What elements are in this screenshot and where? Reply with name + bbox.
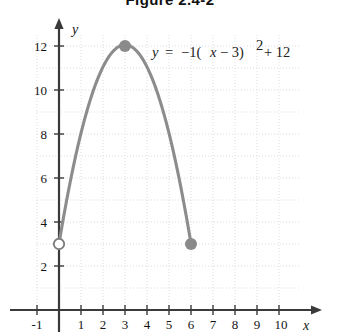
x-axis	[10, 305, 322, 314]
x-tick-label-3: 3	[122, 317, 129, 332]
y-axis-label: y	[70, 22, 79, 37]
x-tick-label-neg1: -1	[32, 317, 43, 332]
y-tick-label-4: 4	[41, 215, 48, 230]
grid-lines	[37, 35, 300, 308]
x-tick-label-2: 2	[100, 317, 107, 332]
equation-leading-coefficient: −1(	[181, 44, 201, 61]
x-tick-label-1: 1	[78, 317, 85, 332]
figure-container: Figure 2.4-2	[0, 0, 340, 335]
right-endpoint-marker	[185, 238, 197, 250]
x-tick-label-5: 5	[166, 317, 173, 332]
x-tick-label-4: 4	[144, 317, 151, 332]
equation-exponent: 2	[256, 37, 263, 53]
x-tick-label-6: 6	[188, 317, 195, 332]
x-tick-label-8: 8	[232, 317, 239, 332]
y-tick-label-8: 8	[41, 127, 48, 142]
x-tick-label-7: 7	[210, 317, 217, 332]
y-tick-label-2: 2	[41, 259, 48, 274]
equation-y-term: y	[150, 44, 159, 60]
x-tick-label-10: 10	[275, 317, 288, 332]
equation-shift-term: − 3)	[220, 44, 244, 61]
equation-x-variable: x	[209, 44, 217, 60]
equation-annotation: y = −1( x − 3) 2 + 12	[150, 37, 290, 61]
parabola-plot: 2 4 6 8 10 12 -1 1 2 3 4 5 6 7 8 9 10 y …	[0, 0, 340, 335]
y-tick-label-10: 10	[34, 83, 47, 98]
x-tick-label-9: 9	[254, 317, 261, 332]
x-axis-label: x	[302, 318, 310, 333]
left-endpoint-open-marker	[54, 239, 64, 249]
equation-equals-sign: =	[165, 44, 173, 60]
y-axis	[54, 18, 63, 332]
y-tick-label-12: 12	[34, 39, 47, 54]
equation-constant-term: + 12	[264, 44, 290, 60]
vertex-point-marker	[119, 40, 131, 52]
y-tick-label-6: 6	[41, 171, 48, 186]
